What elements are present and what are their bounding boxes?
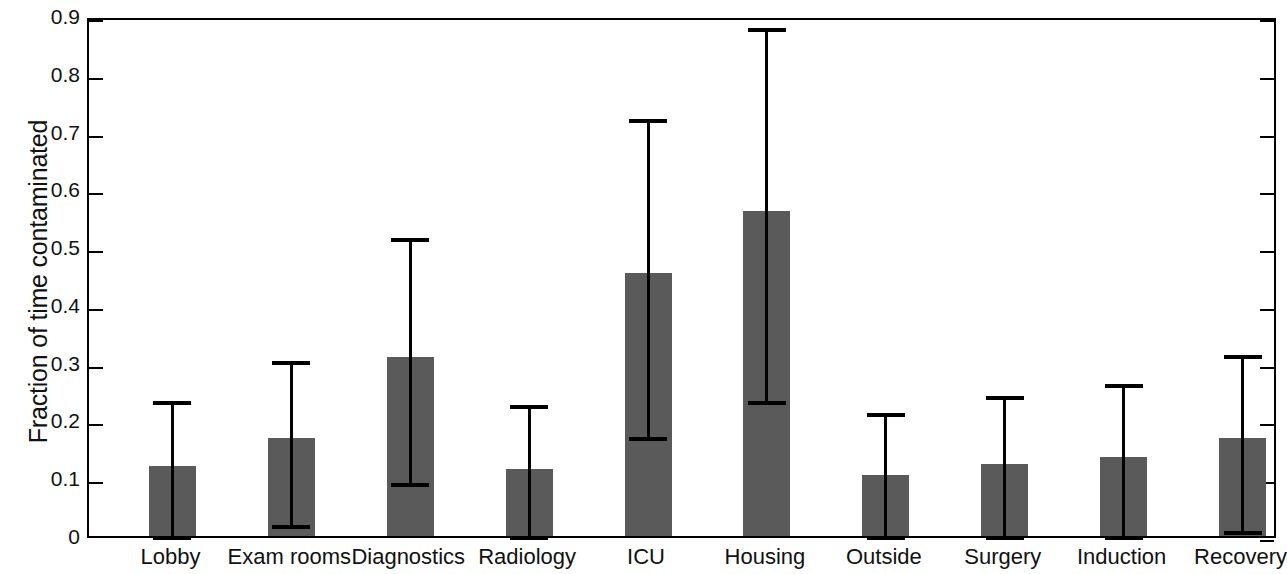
error-bar-cap-lower bbox=[748, 401, 786, 405]
x-tick-label: ICU bbox=[627, 544, 665, 570]
error-bar-line bbox=[1003, 396, 1006, 540]
error-bar-cap-lower bbox=[1105, 536, 1143, 540]
error-bar-cap-lower bbox=[510, 536, 548, 540]
x-tick-label: Lobby bbox=[140, 544, 200, 570]
error-bar-cap-upper bbox=[629, 119, 667, 123]
y-tick-mark-right bbox=[1260, 309, 1274, 311]
error-bar-line bbox=[647, 119, 650, 437]
y-tick-label: 0.2 bbox=[18, 409, 80, 433]
error-bar-cap-lower bbox=[629, 437, 667, 441]
y-tick-mark bbox=[89, 193, 103, 195]
y-tick-mark-right bbox=[1260, 540, 1274, 542]
y-tick-mark bbox=[89, 424, 103, 426]
error-bar-line bbox=[765, 28, 768, 401]
y-tick-mark bbox=[89, 367, 103, 369]
y-tick-mark bbox=[89, 251, 103, 253]
y-tick-mark bbox=[89, 78, 103, 80]
error-bar-line bbox=[884, 413, 887, 540]
x-tick-label: Surgery bbox=[964, 544, 1041, 570]
error-bar-cap-lower bbox=[272, 525, 310, 529]
error-bar-cap-lower bbox=[867, 536, 905, 540]
y-tick-mark-right bbox=[1260, 193, 1274, 195]
x-tick-label: Radiology bbox=[478, 544, 576, 570]
x-tick-label: Recovery bbox=[1194, 544, 1287, 570]
error-bar-cap-lower bbox=[153, 536, 191, 540]
y-tick-label: 0.7 bbox=[18, 121, 80, 145]
x-tick-label: Induction bbox=[1077, 544, 1166, 570]
y-axis-title: Fraction of time contaminated bbox=[24, 32, 53, 532]
error-bar-cap-upper bbox=[1224, 355, 1262, 359]
error-bar-line bbox=[528, 405, 531, 540]
y-tick-mark bbox=[89, 136, 103, 138]
error-bar-cap-lower bbox=[391, 483, 429, 487]
error-bar-cap-upper bbox=[272, 361, 310, 365]
error-bar-line bbox=[1122, 384, 1125, 538]
y-tick-mark-right bbox=[1260, 78, 1274, 80]
error-bar-cap-lower bbox=[986, 536, 1024, 540]
y-tick-mark bbox=[89, 309, 103, 311]
error-bar-cap-upper bbox=[153, 401, 191, 405]
error-bar-cap-lower bbox=[1224, 531, 1262, 535]
x-tick-label: Diagnostics bbox=[351, 544, 465, 570]
y-tick-label: 0.8 bbox=[18, 63, 80, 87]
y-tick-mark-right bbox=[1260, 20, 1274, 22]
error-bar-cap-upper bbox=[510, 405, 548, 409]
y-tick-mark bbox=[89, 20, 103, 22]
error-bar-line bbox=[1241, 355, 1244, 531]
error-bar-cap-upper bbox=[1105, 384, 1143, 388]
y-tick-mark bbox=[89, 482, 103, 484]
y-tick-mark-right bbox=[1260, 136, 1274, 138]
error-bar-cap-upper bbox=[391, 238, 429, 242]
y-tick-label: 0.1 bbox=[18, 467, 80, 491]
y-tick-label: 0.3 bbox=[18, 352, 80, 376]
plot-area bbox=[87, 18, 1276, 538]
y-tick-label: 0.4 bbox=[18, 294, 80, 318]
x-tick-label: Exam rooms bbox=[228, 544, 351, 570]
error-bar-line bbox=[409, 238, 412, 483]
y-tick-mark-right bbox=[1260, 367, 1274, 369]
y-tick-mark-right bbox=[1260, 424, 1274, 426]
y-tick-label: 0.5 bbox=[18, 236, 80, 260]
x-tick-label: Housing bbox=[725, 544, 806, 570]
y-tick-label: 0.6 bbox=[18, 178, 80, 202]
x-tick-label: Outside bbox=[846, 544, 922, 570]
error-bar-line bbox=[171, 401, 174, 540]
error-bar-line bbox=[290, 361, 293, 525]
y-tick-mark-right bbox=[1260, 251, 1274, 253]
error-bar-cap-upper bbox=[867, 413, 905, 417]
y-tick-label: 0 bbox=[18, 525, 80, 549]
error-bar-cap-upper bbox=[986, 396, 1024, 400]
error-bar-cap-upper bbox=[748, 28, 786, 32]
y-tick-label: 0.9 bbox=[18, 5, 80, 29]
